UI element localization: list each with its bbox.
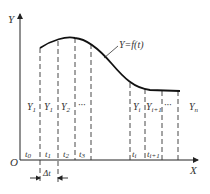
interval-labels: Y1 Y1 Y2 ··· Yi Yi+1 ··· Yn xyxy=(27,99,199,114)
svg-text:ti: ti xyxy=(132,149,137,160)
svg-text:ti+1: ti+1 xyxy=(147,149,160,160)
svg-text:···: ··· xyxy=(164,99,172,110)
svg-text:t1: t1 xyxy=(45,149,51,160)
y-axis-label: Y xyxy=(8,13,16,25)
curve-label: Y=f(t) xyxy=(119,39,144,51)
delta-t-label: Δt xyxy=(42,168,51,178)
x-axis-label: X xyxy=(189,164,198,176)
svg-text:Yi: Yi xyxy=(133,101,141,114)
function-curve xyxy=(40,37,180,91)
curve-label-leader xyxy=(104,46,118,58)
svg-text:Y2: Y2 xyxy=(61,101,71,114)
svg-text:···: ··· xyxy=(78,99,86,110)
svg-text:Yn: Yn xyxy=(189,101,199,114)
origin-label: O xyxy=(10,156,18,168)
svg-text:Yi+1: Yi+1 xyxy=(146,101,162,114)
svg-text:t0: t0 xyxy=(25,149,32,160)
svg-text:t2: t2 xyxy=(63,149,70,160)
svg-text:t3: t3 xyxy=(79,149,86,160)
tick-labels: t0 t1 t2 t3 ti ti+1 xyxy=(25,149,160,160)
svg-text:Y1: Y1 xyxy=(44,101,53,114)
sampling-diagram: Y X O Y=f(t) Y1 Y1 Y2 ··· Yi Yi+1 ··· Yn… xyxy=(0,0,210,194)
svg-text:Y1: Y1 xyxy=(27,101,36,114)
